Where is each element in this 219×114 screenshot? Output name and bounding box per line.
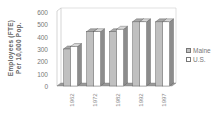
x-tick-label: 1997 <box>161 93 167 106</box>
bar-us-1962 <box>71 47 78 86</box>
bar-us-1997 <box>163 22 170 86</box>
bar-side <box>101 29 105 86</box>
legend-item-us: U.S. <box>186 55 211 64</box>
legend-label-us: U.S. <box>193 56 206 63</box>
bar-maine-1997 <box>156 22 163 86</box>
x-tick-label: 1962 <box>69 93 75 106</box>
x-tick-label: 1992 <box>138 93 144 106</box>
legend: Maine U.S. <box>186 46 211 64</box>
bar-maine-1982 <box>110 32 117 86</box>
bar-side <box>170 19 174 86</box>
bar-us-1992 <box>140 22 147 86</box>
bar-us-1982 <box>117 29 124 86</box>
legend-label-maine: Maine <box>193 47 211 54</box>
side-wall <box>57 8 61 86</box>
bar-maine-1992 <box>133 22 140 86</box>
x-tick-label: 1972 <box>92 93 98 106</box>
bar-us-1972 <box>94 32 101 86</box>
bar-maine-1972 <box>87 32 94 86</box>
x-tick-label: 1982 <box>115 93 121 106</box>
bar-maine-1962 <box>64 49 71 86</box>
legend-swatch-maine <box>186 48 191 53</box>
bar-side <box>147 19 151 86</box>
legend-item-maine: Maine <box>186 46 211 55</box>
bar-side <box>78 44 82 86</box>
legend-swatch-us <box>186 57 191 62</box>
bar-side <box>124 26 128 86</box>
